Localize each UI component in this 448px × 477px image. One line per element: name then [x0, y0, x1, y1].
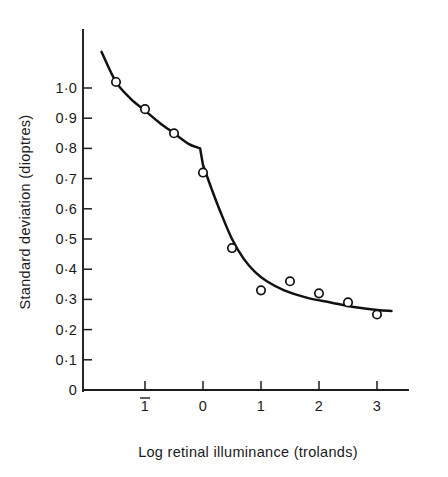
- scatter-plot: 00·10·20·30·40·50·60·70·80·91·0 10123 Lo…: [0, 0, 448, 477]
- data-point-0: [112, 78, 120, 86]
- data-point-5: [257, 286, 265, 294]
- data-point-8: [344, 298, 352, 306]
- data-point-1: [141, 105, 149, 113]
- y-tick-label-9: 0·9: [55, 110, 77, 126]
- y-tick-label-10: 1·0: [55, 80, 77, 96]
- y-tick-label-7: 0·7: [55, 171, 77, 187]
- y-axis-ticks: [83, 88, 92, 360]
- data-points: [112, 78, 381, 319]
- y-tick-label-5: 0·5: [55, 231, 77, 247]
- data-point-6: [286, 277, 294, 285]
- data-point-3: [199, 168, 207, 176]
- x-tick-label-1: 0: [199, 398, 207, 414]
- y-tick-label-2: 0·2: [55, 322, 77, 338]
- x-axis-ticks: [145, 381, 377, 390]
- y-tick-label-8: 0·8: [55, 140, 77, 156]
- y-tick-label-3: 0·3: [55, 291, 77, 307]
- x-tick-label-4: 3: [373, 398, 381, 414]
- fitted-curve: [102, 52, 392, 311]
- y-tick-label-4: 0·4: [55, 261, 77, 277]
- x-axis-title: Log retinal illuminance (trolands): [138, 444, 358, 460]
- x-tick-label-3: 2: [315, 398, 323, 414]
- axes: [83, 30, 408, 391]
- y-tick-label-1: 0·1: [55, 352, 77, 368]
- data-point-4: [228, 244, 236, 252]
- x-axis-tick-labels: 10123: [140, 398, 381, 414]
- y-tick-label-6: 0·6: [55, 201, 77, 217]
- data-point-2: [170, 129, 178, 137]
- figure-container: 00·10·20·30·40·50·60·70·80·91·0 10123 Lo…: [0, 0, 448, 477]
- curve-path: [102, 52, 392, 311]
- x-tick-label-0: 1: [141, 398, 149, 414]
- y-axis-title: Standard deviation (dioptres): [17, 115, 33, 310]
- x-tick-label-2: 1: [257, 398, 265, 414]
- data-point-7: [315, 289, 323, 297]
- data-point-9: [373, 310, 381, 318]
- y-axis-tick-labels: 00·10·20·30·40·50·60·70·80·91·0: [55, 80, 77, 398]
- y-tick-label-0: 0: [69, 382, 77, 398]
